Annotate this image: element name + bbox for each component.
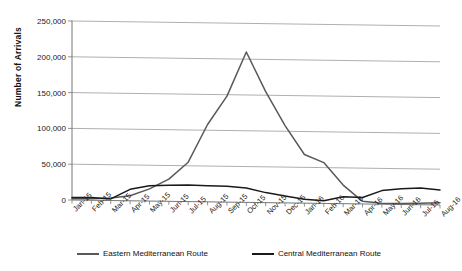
chart-svg bbox=[72, 21, 440, 200]
gridlines bbox=[72, 21, 440, 205]
plot-area bbox=[72, 21, 440, 200]
legend-item[interactable]: Eastern Mediterranean Route bbox=[77, 250, 208, 258]
legend-color-swatch bbox=[77, 253, 99, 255]
legend-color-swatch bbox=[252, 253, 274, 255]
y-axis-tick-label: 200,000 bbox=[37, 52, 66, 61]
y-axis-tick-label: 100,000 bbox=[37, 124, 66, 133]
legend-label: Central Mediterranean Route bbox=[278, 250, 381, 258]
y-axis-tick-label: 50,000 bbox=[42, 160, 66, 169]
y-axis-tick-label: 250,000 bbox=[37, 17, 66, 26]
legend-item[interactable]: Central Mediterranean Route bbox=[252, 250, 381, 258]
legend-label: Eastern Mediterranean Route bbox=[103, 250, 208, 258]
x-axis-tick-label: Aug-16 bbox=[439, 195, 462, 218]
y-axis-tick-label: 150,000 bbox=[37, 88, 66, 97]
y-axis-tick-labels: 050,000100,000150,000200,000250,000 bbox=[0, 0, 72, 271]
chart-legend: Eastern Mediterranean RouteCentral Medit… bbox=[0, 250, 458, 258]
data-series-lines bbox=[72, 52, 440, 203]
y-axis-tick-label: 0 bbox=[62, 196, 66, 205]
